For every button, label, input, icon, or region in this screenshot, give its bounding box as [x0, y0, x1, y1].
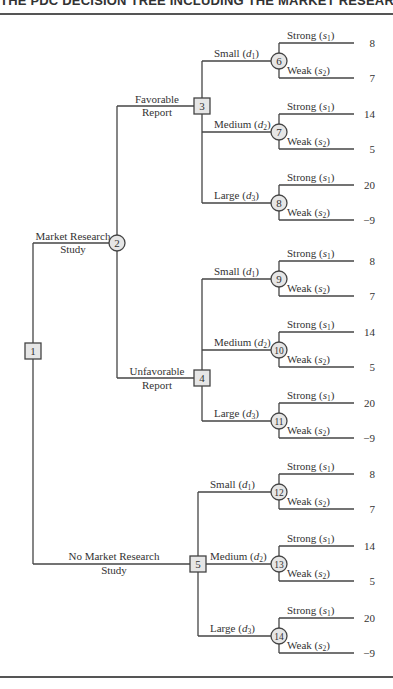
alternative-label: Medium (d2): [214, 118, 271, 132]
outcome-label: Strong (s1): [287, 604, 335, 618]
node-number: 14: [274, 632, 284, 642]
outcome-label: Strong (s1): [287, 460, 335, 474]
node-number: 7: [276, 126, 282, 138]
outcome-label: Strong (s1): [287, 389, 335, 403]
node-number: 6: [276, 55, 282, 67]
payoff-value: 14: [364, 108, 376, 120]
alternative-label: Large (d3): [214, 189, 259, 203]
branch-label: Unfavorable: [130, 365, 185, 377]
decision-tree: Market ResearchStudyNo Market ResearchSt…: [0, 0, 393, 689]
alternative-label: Large (d3): [214, 407, 259, 421]
payoff-value: 20: [364, 397, 376, 409]
outcome-label: Weak (s2): [287, 495, 330, 509]
branch-label: Favorable: [135, 93, 179, 105]
payoff-value: 8: [370, 37, 376, 49]
payoff-value: −9: [363, 647, 375, 659]
alternative-label: Medium (d2): [214, 336, 271, 350]
node-number: 12: [274, 488, 284, 498]
payoff-value: 7: [370, 503, 376, 515]
node-number: 8: [276, 197, 282, 209]
alternative-label: Medium (d2): [210, 550, 267, 564]
payoff-value: 7: [370, 72, 376, 84]
branch-label: Study: [101, 564, 127, 576]
outcome-label: Weak (s2): [287, 424, 330, 438]
alternative-label: Small (d1): [210, 478, 255, 492]
payoff-value: −9: [363, 432, 375, 444]
payoff-value: 8: [370, 468, 376, 480]
branch-label: Study: [60, 243, 86, 255]
outcome-label: Weak (s2): [287, 206, 330, 220]
alternative-label: Large (d3): [210, 622, 255, 636]
payoff-value: 5: [370, 143, 376, 155]
payoff-value: −9: [363, 214, 375, 226]
node-number: 5: [195, 558, 201, 570]
branch-label: Report: [142, 379, 172, 391]
alternative-label: Small (d1): [214, 47, 259, 61]
node-number: 1: [30, 345, 36, 357]
outcome-label: Strong (s1): [287, 29, 335, 43]
node-number: 4: [199, 372, 205, 384]
outcome-label: Strong (s1): [287, 247, 335, 261]
outcome-label: Strong (s1): [287, 100, 335, 114]
outcome-label: Strong (s1): [287, 171, 335, 185]
payoff-value: 8: [370, 255, 376, 267]
outcome-label: Weak (s2): [287, 353, 330, 367]
payoff-value: 5: [370, 575, 376, 587]
branch-label: No Market Research: [68, 550, 160, 562]
node-number: 13: [274, 560, 284, 570]
outcome-label: Weak (s2): [287, 282, 330, 296]
branch-label: Report: [142, 106, 172, 118]
payoff-value: 7: [370, 290, 376, 302]
branch-label: Market Research: [36, 230, 111, 242]
alternative-label: Small (d1): [214, 265, 259, 279]
outcome-label: Strong (s1): [287, 318, 335, 332]
node-number: 9: [276, 273, 282, 285]
payoff-value: 14: [364, 540, 376, 552]
node-number: 3: [199, 100, 205, 112]
outcome-label: Weak (s2): [287, 135, 330, 149]
payoff-value: 5: [370, 361, 376, 373]
node-number: 11: [274, 417, 283, 427]
node-number: 10: [274, 346, 284, 356]
payoff-value: 14: [364, 326, 376, 338]
node-number: 2: [114, 237, 120, 249]
payoff-value: 20: [364, 612, 376, 624]
outcome-label: Weak (s2): [287, 64, 330, 78]
outcome-label: Weak (s2): [287, 639, 330, 653]
payoff-value: 20: [364, 179, 376, 191]
outcome-label: Strong (s1): [287, 532, 335, 546]
outcome-label: Weak (s2): [287, 567, 330, 581]
